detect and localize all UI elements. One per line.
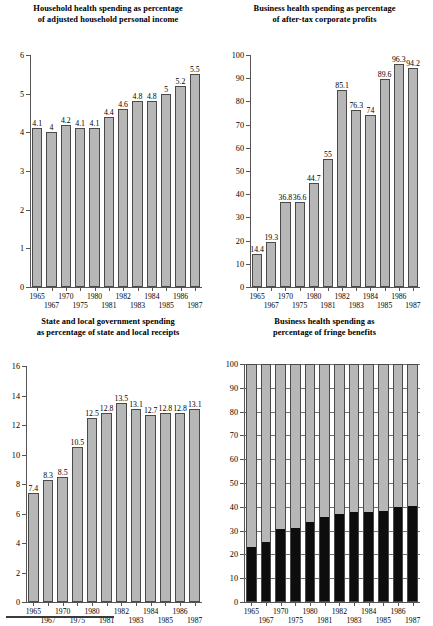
- bar[interactable]: 4.1: [89, 128, 99, 287]
- bar-slot: 8.3: [41, 366, 56, 602]
- stacked-bar[interactable]: [378, 364, 389, 602]
- chart-title: State and local government spending as p…: [0, 313, 216, 338]
- bar[interactable]: 19.3: [266, 242, 276, 287]
- bar[interactable]: 4.4: [104, 117, 114, 287]
- y-axis-tick-label: 4: [16, 539, 20, 548]
- stacked-bar[interactable]: [334, 364, 345, 602]
- bar[interactable]: 89.6: [380, 79, 390, 287]
- bar-slot: [303, 364, 318, 602]
- bar[interactable]: 4.1: [32, 128, 42, 287]
- bar[interactable]: 5: [161, 94, 171, 287]
- bar[interactable]: 4.8: [147, 101, 157, 287]
- stacked-bar[interactable]: [393, 364, 404, 602]
- x-axis-tick: [136, 602, 137, 606]
- bar[interactable]: 4: [46, 132, 56, 287]
- bar-slot: [244, 364, 259, 602]
- bar[interactable]: 12.8: [160, 413, 171, 602]
- stacked-bar[interactable]: [319, 364, 330, 602]
- x-axis-tick: [151, 602, 152, 606]
- x-axis-tick-label: 1983: [349, 301, 364, 310]
- axes: 0102030405060708090100196519671970197519…: [244, 364, 420, 602]
- bar[interactable]: 10.5: [72, 447, 83, 602]
- x-axis-tick-label: 1987: [187, 616, 202, 625]
- bar[interactable]: 8.5: [57, 477, 68, 602]
- x-axis-tick: [109, 287, 110, 291]
- stacked-bar[interactable]: [290, 364, 301, 602]
- bar-value-label: 8.3: [43, 471, 53, 480]
- bar-value-label: 5.5: [190, 65, 200, 74]
- bar-slot: [332, 364, 347, 602]
- bar-value-label: 4: [50, 123, 54, 132]
- x-axis-tick: [285, 287, 286, 291]
- x-axis-tick-label: 1975: [292, 301, 307, 310]
- stacked-bar[interactable]: [305, 364, 316, 602]
- x-axis-tick-label: 1987: [405, 616, 420, 625]
- bar-slot: 55: [321, 55, 335, 287]
- bar-slot: 5: [159, 55, 173, 287]
- y-axis-tick-label: 6: [16, 509, 20, 518]
- bar[interactable]: 96.3: [394, 64, 404, 287]
- x-axis-tick: [257, 287, 258, 291]
- bar[interactable]: 85.1: [337, 90, 347, 287]
- stacked-bar[interactable]: [261, 364, 272, 602]
- stack-segment-health-spending: [335, 514, 344, 601]
- y-axis-tick-label: 6: [20, 51, 24, 60]
- chart-title-line-2: of after-tax corporate profits: [224, 15, 425, 26]
- bar-slot: 7.4: [26, 366, 41, 602]
- bar[interactable]: 4.1: [75, 128, 85, 287]
- stacked-bar[interactable]: [363, 364, 374, 602]
- x-axis-tick-label: 1965: [244, 607, 259, 616]
- bar[interactable]: 5.5: [190, 74, 200, 287]
- x-axis-tick: [266, 602, 267, 606]
- stack-segment-health-spending: [408, 506, 417, 601]
- bar-slot: 4.4: [102, 55, 116, 287]
- stacked-bar[interactable]: [246, 364, 257, 602]
- x-axis-tick: [369, 602, 370, 606]
- stacked-bar[interactable]: [275, 364, 286, 602]
- bar[interactable]: 14.4: [252, 254, 262, 287]
- bar[interactable]: 5.2: [175, 86, 185, 287]
- stack-segment-health-spending: [291, 528, 300, 601]
- x-axis-tick: [80, 287, 81, 291]
- x-axis-tick-label: 1970: [58, 292, 73, 301]
- bar-slot: 12.8: [158, 366, 173, 602]
- bar-value-label: 74: [367, 106, 375, 115]
- stacked-bar[interactable]: [349, 364, 360, 602]
- bar[interactable]: 7.4: [28, 493, 39, 602]
- bar[interactable]: 12.7: [145, 415, 156, 602]
- x-axis-tick-label: 1983: [346, 616, 361, 625]
- bar-slot: 89.6: [378, 55, 392, 287]
- bar-value-label: 89.6: [378, 70, 392, 79]
- x-axis-tick-label: 1965: [249, 292, 264, 301]
- bar[interactable]: 76.3: [351, 110, 361, 287]
- chart-panel-household-health-spending: Household health spending as percentage …: [0, 0, 216, 313]
- x-axis-tick: [354, 602, 355, 606]
- x-axis-tick: [271, 287, 272, 291]
- bar[interactable]: 8.3: [43, 480, 54, 602]
- stacked-bar[interactable]: [407, 364, 418, 602]
- bar[interactable]: 12.8: [101, 413, 112, 602]
- x-axis-tick: [195, 602, 196, 606]
- x-axis-tick: [52, 287, 53, 291]
- bar[interactable]: 94.2: [408, 68, 418, 287]
- x-axis-tick-label: 1986: [173, 292, 188, 301]
- bar[interactable]: 36.8: [280, 202, 290, 287]
- bar[interactable]: 55: [323, 159, 333, 287]
- bar-slot: 4.6: [116, 55, 130, 287]
- bar[interactable]: 12.8: [175, 413, 186, 602]
- bar[interactable]: 36.6: [295, 202, 305, 287]
- bar-slot: 4.1: [30, 55, 44, 287]
- y-axis-tick-label: 14: [12, 391, 20, 400]
- bar[interactable]: 4.8: [132, 101, 142, 287]
- bar[interactable]: 4.2: [61, 125, 71, 287]
- x-axis-tick: [92, 602, 93, 606]
- bar-value-label: 8.5: [58, 468, 68, 477]
- bar[interactable]: 4.6: [118, 109, 128, 287]
- bar[interactable]: 13.1: [131, 409, 142, 602]
- bar[interactable]: 44.7: [309, 183, 319, 287]
- bar[interactable]: 13.5: [116, 403, 127, 602]
- bar-group: 4.144.24.14.14.44.64.84.855.25.5: [30, 55, 202, 287]
- bar[interactable]: 13.1: [189, 409, 200, 602]
- bar[interactable]: 12.5: [87, 418, 98, 602]
- bar[interactable]: 74: [365, 115, 375, 287]
